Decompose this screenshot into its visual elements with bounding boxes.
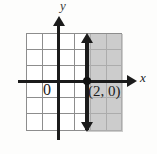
- y-axis-line: [57, 24, 60, 140]
- intercept-point-label: (2, 0): [88, 84, 121, 99]
- y-axis-arrow-icon: [53, 16, 65, 26]
- y-axis-label: y: [60, 0, 66, 14]
- coordinate-plane-figure: x y 0 (2, 0): [0, 0, 157, 154]
- boundary-arrow-down-icon: [81, 122, 93, 132]
- boundary-arrow-up-icon: [81, 33, 93, 43]
- origin-label: 0: [43, 82, 51, 98]
- x-axis-label: x: [140, 70, 146, 86]
- x-axis-arrow-icon: [127, 75, 137, 87]
